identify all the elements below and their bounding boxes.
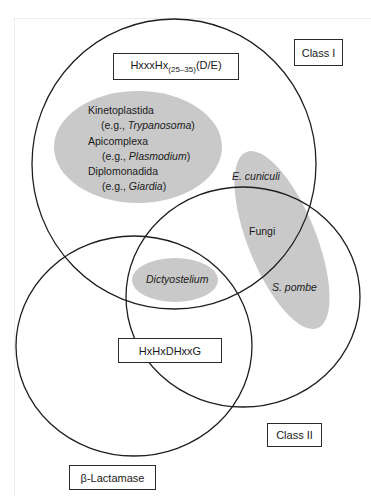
class-1-label-box: Class I	[294, 39, 343, 66]
protozoa-line-3-name: Diplomonadida	[88, 166, 158, 177]
motif-prefix: HxxxHx	[130, 59, 168, 71]
class-2-label-box: Class II	[267, 423, 322, 447]
shared-motif-box: HxHxDHxxG	[118, 338, 222, 363]
protozoa-line-1-example: (e.g., Trypanosoma)	[101, 120, 195, 131]
class-1-motif: HxxxHx(25–35)(D/E)	[130, 59, 221, 74]
fungi-label: Fungi	[249, 226, 275, 237]
motif-subscript: (25–35)	[168, 65, 196, 74]
class-1-motif-box: HxxxHx(25–35)(D/E)	[113, 53, 239, 80]
class-1-label: Class I	[302, 47, 336, 59]
beta-lactamase-label: β-Lactamase	[81, 472, 145, 484]
fungi-bottom-species: S. pombe	[272, 282, 317, 293]
protozoa-line-2-name: Apicomplexa	[88, 136, 148, 147]
protozoa-line-1-name: Kinetoplastida	[88, 105, 154, 116]
motif-suffix: (D/E)	[196, 59, 222, 71]
dictyostelium-label: Dictyostelium	[146, 274, 208, 285]
fungi-top-species: E. cuniculi	[232, 171, 280, 182]
class-2-label: Class II	[276, 429, 313, 441]
protozoa-line-2-example: (e.g., Plasmodium)	[102, 151, 190, 162]
protozoa-line-3-example: (e.g., Giardia)	[102, 181, 166, 192]
shared-motif: HxHxDHxxG	[139, 345, 201, 357]
beta-lactamase-label-box: β-Lactamase	[69, 465, 156, 490]
